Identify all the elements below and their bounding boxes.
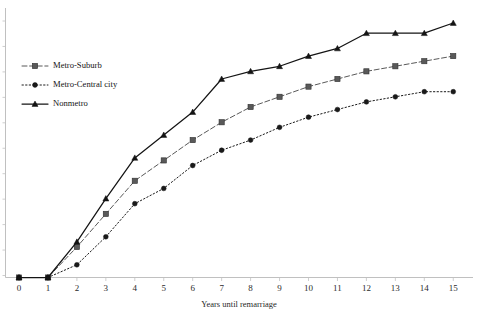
data-point-marker [248,138,253,143]
data-point-marker [219,148,224,153]
chart-figure: 0123456789101112131415 Years until remar… [0,0,478,321]
x-axis: 0123456789101112131415 Years until remar… [6,278,474,310]
data-point-marker [422,89,427,94]
data-point-marker [334,45,340,50]
legend-label: Metro-Suburb [53,60,102,70]
legend-label: Metro-Central city [53,79,118,89]
legend-item-metro-suburb[interactable]: Metro-Suburb [22,60,102,70]
data-point-marker [450,20,456,25]
data-series-group [16,20,456,280]
data-point-marker [277,94,282,99]
data-point-marker [393,64,398,69]
x-axis-tick-label: 0 [17,283,22,293]
data-point-marker [335,107,340,112]
data-point-marker [277,125,282,130]
data-point-marker [451,89,456,94]
x-axis-ticks [19,278,453,282]
data-point-marker [132,201,137,206]
x-axis-tick-label: 5 [162,283,167,293]
data-point-marker [364,99,369,104]
data-point-marker [422,59,427,64]
data-point-marker [248,104,253,109]
data-point-marker [451,53,456,58]
data-point-marker [335,76,340,81]
legend-item-nonmetro[interactable]: Nonmetro [22,98,88,108]
x-axis-tick-label: 2 [75,283,80,293]
data-point-marker [75,262,80,267]
series-line [19,92,453,278]
x-axis-tick-label: 3 [104,283,109,293]
data-point-marker [103,211,108,216]
x-axis-title: Years until remarriage [201,299,277,309]
x-axis-tick-label: 10 [304,283,314,293]
x-axis-tick-label: 14 [420,283,430,293]
x-axis-tick-label: 13 [391,283,401,293]
data-point-marker [306,115,311,120]
y-axis [3,8,6,278]
x-axis-tick-label: 9 [277,283,282,293]
data-point-marker [393,94,398,99]
data-point-marker [190,163,195,168]
data-point-marker [103,234,108,239]
x-axis-tick-label: 7 [219,283,224,293]
line-chart: 0123456789101112131415 Years until remar… [0,0,478,321]
series-metro-central-city [17,89,456,280]
legend-label: Nonmetro [53,98,88,108]
data-point-marker [74,244,79,249]
x-axis-tick-label: 12 [362,283,371,293]
data-point-marker [132,178,137,183]
x-axis-tick-label: 1 [46,283,51,293]
data-point-marker [161,186,166,191]
data-point-marker [161,158,166,163]
data-point-marker [306,84,311,89]
x-axis-tick-label: 8 [248,283,253,293]
legend-item-metro-central-city[interactable]: Metro-Central city [22,79,118,89]
data-point-marker [190,137,195,142]
x-axis-tick-label: 6 [190,283,195,293]
data-point-marker [33,83,38,88]
chart-legend: Metro-SuburbMetro-Central cityNonmetro [22,60,118,108]
data-point-marker [364,69,369,74]
x-axis-tick-label: 15 [449,283,459,293]
x-axis-tick-labels: 0123456789101112131415 [17,283,459,293]
data-point-marker [219,120,224,125]
data-point-marker [32,63,37,68]
x-axis-tick-label: 11 [333,283,342,293]
x-axis-tick-label: 4 [133,283,138,293]
